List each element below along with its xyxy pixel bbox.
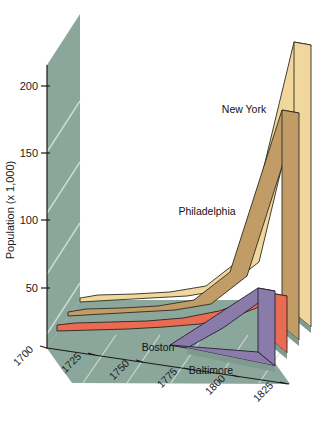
- back-wall-panel: [47, 14, 80, 348]
- x-tick-label-1700: 1700: [10, 343, 35, 368]
- series-label-new-york: New York: [222, 103, 267, 115]
- y-tick-label-100: 100: [20, 214, 38, 226]
- series-label-philadelphia: Philadelphia: [178, 205, 235, 217]
- series-label-baltimore: Baltimore: [189, 364, 234, 376]
- chart-figure: 200 150 100 50 Population (x 1,000) 1700…: [0, 0, 323, 430]
- back-wall-group: [47, 14, 80, 348]
- series-new-york[interactable]: [80, 42, 311, 333]
- y-axis-group: 200 150 100 50 Population (x 1,000): [4, 65, 50, 349]
- series-label-boston: Boston: [142, 341, 175, 353]
- x-tick-1700: [40, 346, 47, 348]
- y-tick-label-50: 50: [26, 282, 38, 294]
- y-tick-label-200: 200: [20, 80, 38, 92]
- y-axis-title: Population (x 1,000): [4, 161, 16, 259]
- figure-caption-fragment: [0, 414, 323, 430]
- population-area-chart-svg: 200 150 100 50 Population (x 1,000) 1700…: [0, 0, 323, 430]
- y-tick-label-150: 150: [20, 147, 38, 159]
